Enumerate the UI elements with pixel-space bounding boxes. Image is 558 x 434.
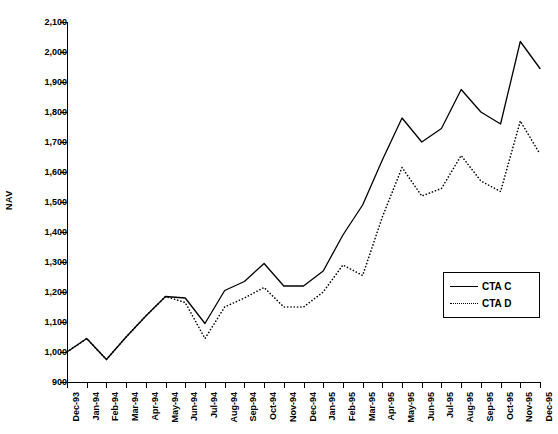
x-tick-mark xyxy=(225,382,226,388)
x-tick-mark xyxy=(323,382,324,388)
y-tick-row: 2,000 xyxy=(0,52,67,53)
x-tick-label: Dec-94 xyxy=(308,392,318,422)
x-tick-mark xyxy=(284,382,285,388)
x-tick-label: Apr-95 xyxy=(386,392,396,421)
x-tick-mark xyxy=(146,382,147,388)
y-tick-mark xyxy=(60,112,67,113)
y-tick-mark xyxy=(60,142,67,143)
x-tick-label: Sep-94 xyxy=(248,392,258,422)
x-tick-label: Jan-95 xyxy=(327,392,337,421)
x-tick-mark xyxy=(166,382,167,388)
y-axis-title: NAV xyxy=(4,150,14,210)
y-tick-row: 1,900 xyxy=(0,82,67,83)
x-tick-label: Nov-95 xyxy=(524,392,534,422)
x-tick-label: Mar-95 xyxy=(367,392,377,421)
legend-item: CTA C xyxy=(450,278,533,295)
x-tick-mark xyxy=(441,382,442,388)
x-tick-mark xyxy=(382,382,383,388)
x-tick-label: Jul-94 xyxy=(209,392,219,418)
x-tick-label: Sep-95 xyxy=(485,392,495,422)
y-tick-mark xyxy=(60,322,67,323)
x-tick-mark xyxy=(402,382,403,388)
x-tick-label: Mar-94 xyxy=(130,392,140,421)
chart-canvas: NAV 9001,0001,1001,2001,3001,4001,5001,6… xyxy=(0,0,558,434)
x-tick-mark xyxy=(461,382,462,388)
y-tick-row: 1,800 xyxy=(0,112,67,113)
legend-label: CTA D xyxy=(482,298,511,309)
x-tick-mark xyxy=(126,382,127,388)
x-tick-label: Apr-94 xyxy=(150,392,160,421)
y-tick-mark xyxy=(60,262,67,263)
y-tick-row: 1,600 xyxy=(0,172,67,173)
y-tick-mark xyxy=(60,292,67,293)
x-tick-label: Jun-95 xyxy=(426,392,436,421)
x-tick-label: Aug-95 xyxy=(465,392,475,423)
y-tick-mark xyxy=(60,82,67,83)
x-tick-label: Jul-95 xyxy=(445,392,455,418)
x-tick-mark xyxy=(87,382,88,388)
y-tick-row: 1,100 xyxy=(0,322,67,323)
x-tick-mark xyxy=(501,382,502,388)
y-tick-row: 1,400 xyxy=(0,232,67,233)
legend-label: CTA C xyxy=(482,281,511,292)
y-tick-row: 2,100 xyxy=(0,22,67,23)
x-tick-mark xyxy=(363,382,364,388)
x-tick-label: Aug-94 xyxy=(229,392,239,423)
x-tick-label: Feb-94 xyxy=(110,392,120,421)
legend-item: CTA D xyxy=(450,295,533,312)
x-tick-mark xyxy=(185,382,186,388)
x-tick-label: May-95 xyxy=(406,392,416,423)
y-tick-row: 1,000 xyxy=(0,352,67,353)
x-tick-label: Nov-94 xyxy=(288,392,298,422)
legend-swatch-dotted-icon xyxy=(450,303,478,304)
x-tick-label: Oct-95 xyxy=(505,392,515,420)
y-tick-mark xyxy=(60,382,67,383)
y-tick-row: 1,300 xyxy=(0,262,67,263)
x-tick-label: Feb-95 xyxy=(347,392,357,421)
y-tick-row: 1,700 xyxy=(0,142,67,143)
x-tick-label: Dec-95 xyxy=(544,392,554,422)
y-tick-row: 1,500 xyxy=(0,202,67,203)
x-tick-mark xyxy=(422,382,423,388)
x-tick-mark xyxy=(540,382,541,388)
x-tick-label: Jan-94 xyxy=(91,392,101,421)
y-tick-mark xyxy=(60,232,67,233)
legend-swatch-solid-icon xyxy=(450,286,478,287)
plot-area xyxy=(67,22,540,382)
x-tick-mark xyxy=(244,382,245,388)
x-tick-mark xyxy=(264,382,265,388)
x-tick-mark xyxy=(205,382,206,388)
x-tick-label: May-94 xyxy=(170,392,180,423)
y-tick-mark xyxy=(60,352,67,353)
legend: CTA C CTA D xyxy=(443,272,540,318)
x-tick-mark xyxy=(106,382,107,388)
x-tick-mark xyxy=(67,382,68,388)
x-tick-label: Oct-94 xyxy=(268,392,278,420)
y-tick-mark xyxy=(60,52,67,53)
x-tick-label: Dec-93 xyxy=(71,392,81,422)
x-tick-mark xyxy=(481,382,482,388)
y-tick-row: 900 xyxy=(0,382,67,383)
x-tick-label: Jun-94 xyxy=(189,392,199,421)
y-tick-row: 1,200 xyxy=(0,292,67,293)
x-tick-mark xyxy=(304,382,305,388)
series-layer xyxy=(67,22,540,382)
x-tick-mark xyxy=(520,382,521,388)
y-tick-mark xyxy=(60,172,67,173)
y-tick-mark xyxy=(60,202,67,203)
y-tick-mark xyxy=(60,22,67,23)
x-tick-mark xyxy=(343,382,344,388)
